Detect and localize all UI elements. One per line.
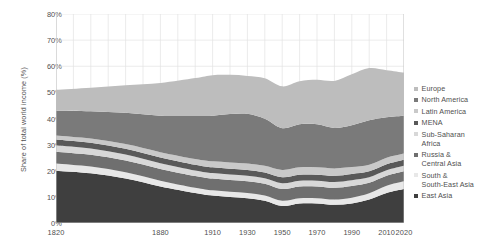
legend-item-label: North America bbox=[422, 95, 469, 104]
legend-swatch-icon bbox=[414, 121, 418, 125]
chart-figure: Share of total world income (%) 80%70%60… bbox=[0, 0, 484, 250]
legend-item[interactable]: North America bbox=[414, 95, 484, 104]
legend-item[interactable]: Russia & Central Asia bbox=[414, 150, 484, 168]
x-tick-label: 1990 bbox=[343, 228, 360, 237]
legend-swatch-icon bbox=[414, 194, 418, 198]
legend-swatch-icon bbox=[414, 153, 418, 157]
legend-item-label: South & South-East Asia bbox=[422, 171, 474, 189]
legend-item-label: Europe bbox=[422, 84, 446, 93]
legend-swatch-icon bbox=[414, 87, 418, 91]
legend-item[interactable]: Sub-Saharan Africa bbox=[414, 130, 484, 148]
legend-item-label: Russia & Central Asia bbox=[422, 150, 462, 168]
legend-item-label: Latin America bbox=[422, 107, 467, 116]
stacked-area-plot bbox=[56, 14, 404, 223]
x-tick-label: 1950 bbox=[274, 228, 291, 237]
legend-item[interactable]: MENA bbox=[414, 118, 484, 127]
legend-swatch-icon bbox=[414, 173, 418, 177]
legend-swatch-icon bbox=[414, 132, 418, 136]
x-tick-label: 1820 bbox=[48, 228, 65, 237]
chart-legend: EuropeNorth AmericaLatin AmericaMENASub-… bbox=[414, 84, 484, 203]
legend-item[interactable]: South & South-East Asia bbox=[414, 171, 484, 189]
legend-swatch-icon bbox=[414, 109, 418, 113]
plot-area bbox=[56, 14, 404, 223]
area-bands bbox=[56, 68, 404, 223]
legend-swatch-icon bbox=[414, 98, 418, 102]
legend-item[interactable]: East Asia bbox=[414, 191, 484, 200]
legend-item-label: MENA bbox=[422, 118, 443, 127]
legend-item[interactable]: Latin America bbox=[414, 107, 484, 116]
x-tick-label: 2010 bbox=[378, 228, 395, 237]
legend-item[interactable]: Europe bbox=[414, 84, 484, 93]
legend-item-label: Sub-Saharan Africa bbox=[422, 130, 465, 148]
legend-item-label: East Asia bbox=[422, 191, 453, 200]
x-tick-label: 1910 bbox=[204, 228, 221, 237]
x-tick-label: 1880 bbox=[152, 228, 169, 237]
x-tick-label: 1970 bbox=[309, 228, 326, 237]
y-axis-title: Share of total world income (%) bbox=[19, 35, 28, 205]
x-tick-label: 1930 bbox=[239, 228, 256, 237]
x-tick-label: 2020 bbox=[396, 228, 413, 237]
